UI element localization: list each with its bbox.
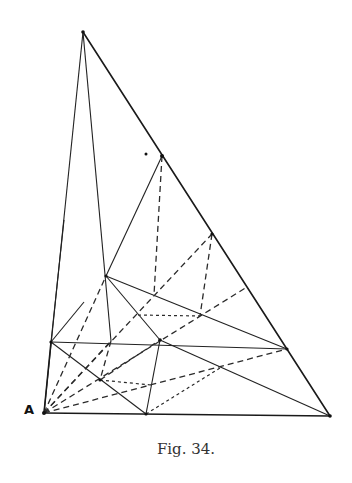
line-L-to-apex-side	[51, 220, 64, 342]
dash-D-to-U	[146, 368, 220, 414]
line-L-to-R	[51, 342, 287, 349]
point-R	[285, 347, 288, 350]
point-B	[328, 414, 332, 418]
line-L-to-A	[44, 342, 51, 413]
edge-A-to-B	[44, 413, 330, 416]
vertex-label-A: A	[24, 402, 34, 417]
point-A	[42, 411, 46, 415]
line-P1-to-Q	[106, 156, 162, 276]
point-Q	[104, 274, 107, 277]
point-D	[144, 412, 147, 415]
dash-horizontal-N-M	[138, 315, 200, 316]
point-stray-dot	[145, 153, 148, 156]
point-C	[158, 338, 162, 342]
point-L	[49, 340, 52, 343]
dash-A-to-Q	[44, 276, 106, 413]
edge-apex-to-B	[83, 32, 330, 416]
point-apex	[81, 30, 85, 34]
line-C-to-B	[160, 340, 330, 416]
line-Q-to-R	[106, 276, 287, 349]
line-C-to-D	[146, 340, 160, 414]
point-P1	[160, 154, 164, 158]
dash-A-to-P2	[44, 234, 212, 413]
geometric-figure	[0, 0, 352, 483]
figure-caption: Fig. 34.	[0, 440, 352, 458]
dash-P1-down	[154, 156, 162, 295]
line-L-to-D	[51, 342, 146, 414]
point-S	[98, 378, 101, 381]
dash-A-to-J	[44, 341, 111, 413]
line-Q-to-C	[106, 276, 160, 340]
line-apex-to-J	[83, 32, 111, 341]
point-P2	[210, 232, 213, 235]
dash-P2-to-M	[200, 234, 212, 316]
